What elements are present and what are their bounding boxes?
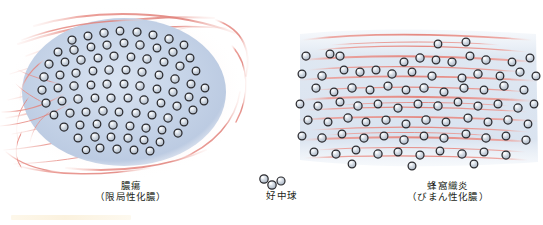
caption-abscess: 膿瘍 （限局性化膿）: [46, 180, 216, 202]
caption-abscess-main: 膿瘍: [46, 180, 216, 191]
caption-neutrophil-main: 好中球: [232, 190, 332, 201]
bottom-accent-bar: [11, 215, 131, 220]
caption-cellulitis-sub: （びまん性化膿）: [358, 191, 538, 202]
caption-abscess-sub: （限局性化膿）: [46, 191, 216, 202]
caption-cellulitis: 蜂窩織炎 （びまん性化膿）: [358, 180, 538, 202]
pathology-figure: 膿瘍 （限局性化膿） 好中球 蜂窩織炎 （びまん性化膿）: [0, 0, 543, 225]
caption-cellulitis-main: 蜂窩織炎: [358, 180, 538, 191]
caption-neutrophil: 好中球: [232, 190, 332, 201]
